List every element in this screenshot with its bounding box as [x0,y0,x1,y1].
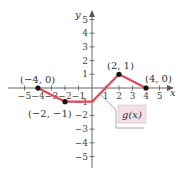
svg-text:−5: −5 [75,152,89,162]
plot-svg: −5−4−3−2−112345−5−4−3−2−112345 y x (−4, … [0,0,182,177]
point-label-4-0: (4, 0) [145,73,172,84]
svg-text:5: 5 [82,15,88,25]
svg-text:−2: −2 [75,110,88,120]
point-label-2-1: (2, 1) [107,60,134,71]
svg-text:1: 1 [82,69,88,79]
svg-text:2: 2 [116,91,122,101]
svg-text:3: 3 [82,42,88,52]
axes: −5−4−3−2−112345−5−4−3−2−112345 [8,10,174,168]
svg-text:4: 4 [82,28,88,38]
svg-text:−4: −4 [75,138,89,148]
svg-text:3: 3 [130,91,136,101]
svg-text:4: 4 [143,91,149,101]
function-label: g(x) [122,109,142,120]
svg-text:−4: −4 [31,91,45,101]
point-label-neg2-neg1: (−2, −1) [28,108,72,119]
x-axis-label: x [170,87,176,98]
svg-text:−3: −3 [75,124,89,134]
point-label-neg4-0: (−4, 0) [20,74,55,85]
svg-text:−5: −5 [18,91,32,101]
svg-text:5: 5 [157,91,163,101]
svg-text:2: 2 [82,56,88,66]
function-graph: −5−4−3−2−112345−5−4−3−2−112345 y x (−4, … [0,0,182,177]
y-axis-label: y [74,9,81,20]
